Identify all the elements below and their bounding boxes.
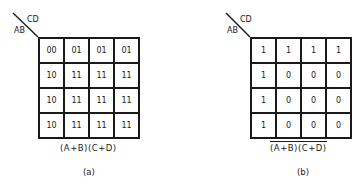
kmap-cell: 11	[64, 88, 89, 113]
kmap-cell: 0	[276, 88, 301, 113]
complemented-boolean-expression: (A+B)(C+D)	[270, 141, 327, 153]
col-var-label: CD	[27, 16, 39, 24]
kmap-cell: 0	[276, 113, 301, 138]
kmap-cell: 11	[64, 63, 89, 88]
kmap-cell: 11	[89, 63, 114, 88]
kmap-grid: 1 1 1 1 1 0 0 0 1 0 0 0 1 0 0 0	[250, 37, 352, 139]
kmap-a: CD AB 00 01 01 01 10 11 11 11 10 11 11 1…	[0, 0, 182, 186]
kmap-cell: 01	[64, 38, 89, 63]
kmap-cell: 01	[89, 38, 114, 63]
row-var-label: AB	[14, 27, 25, 35]
kmap-cell: 0	[276, 63, 301, 88]
kmap-cell: 11	[114, 88, 139, 113]
kmap-cell: 1	[251, 63, 276, 88]
kmap-cell: 11	[114, 63, 139, 88]
kmap-cell: 0	[326, 63, 351, 88]
col-var-label: CD	[240, 16, 252, 24]
kmap-cell: 11	[64, 113, 89, 138]
figure-caption: (a)	[83, 167, 95, 177]
kmap-cell: 0	[326, 88, 351, 113]
kmap-cell: 01	[114, 38, 139, 63]
kmap-cell: 0	[301, 88, 326, 113]
kmap-cell: 0	[301, 63, 326, 88]
kmap-cell: 10	[39, 113, 64, 138]
kmap-cell: 10	[39, 63, 64, 88]
kmap-cell: 1	[251, 113, 276, 138]
kmap-cell: 1	[251, 88, 276, 113]
kmap-grid: 00 01 01 01 10 11 11 11 10 11 11 11 10 1…	[38, 37, 140, 139]
kmap-cell: 1	[326, 38, 351, 63]
kmap-cell: 11	[89, 113, 114, 138]
kmap-cell: 1	[276, 38, 301, 63]
kmap-cell: 11	[114, 113, 139, 138]
kmap-cell: 0	[301, 113, 326, 138]
figure-caption: (b)	[297, 167, 309, 177]
kmap-cell: 00	[39, 38, 64, 63]
kmap-cell: 11	[89, 88, 114, 113]
kmap-cell: 1	[251, 38, 276, 63]
boolean-expression: (A+B)(C+D)	[60, 143, 117, 153]
row-var-label: AB	[227, 27, 238, 35]
kmap-b: CD AB 1 1 1 1 1 0 0 0 1 0 0 0 1 0 0 0 (A…	[182, 0, 364, 186]
kmap-cell: 10	[39, 88, 64, 113]
kmap-cell: 0	[326, 113, 351, 138]
kmap-cell: 1	[301, 38, 326, 63]
